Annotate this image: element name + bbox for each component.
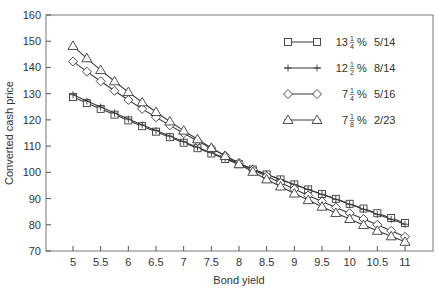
legend-fraction-denominator: 4 xyxy=(350,43,354,50)
x-axis: 55.566.577.588.599.51010.511 xyxy=(70,246,411,268)
x-tick-label: 11 xyxy=(399,256,410,268)
legend-fraction-numerator: 1 xyxy=(350,35,354,42)
legend-item: 714%5/16 xyxy=(284,87,396,102)
y-tick-label: 160 xyxy=(23,9,41,21)
y-tick-label: 70 xyxy=(29,245,41,257)
x-tick-label: 9.5 xyxy=(314,256,329,268)
legend-percent: % xyxy=(357,62,367,74)
x-tick-label: 9 xyxy=(291,256,297,268)
legend-fraction-denominator: 8 xyxy=(350,121,354,128)
legend-item: 718%2/23 xyxy=(283,113,395,128)
x-tick-label: 6.5 xyxy=(148,256,163,268)
y-tick-label: 100 xyxy=(23,166,41,178)
diamond-marker-icon xyxy=(96,77,105,86)
y-axis: 708090100110120130140150160 xyxy=(23,9,51,257)
triangle-marker-icon xyxy=(123,87,133,96)
triangle-marker-icon xyxy=(151,107,161,116)
x-tick-label: 5 xyxy=(70,256,76,268)
legend-percent: % xyxy=(357,114,367,126)
legend-percent: % xyxy=(357,88,367,100)
y-tick-label: 150 xyxy=(23,35,41,47)
triangle-marker-icon xyxy=(283,115,293,124)
triangle-marker-icon xyxy=(372,226,382,235)
diamond-marker-icon xyxy=(82,67,91,76)
x-axis-title: Bond yield xyxy=(213,274,264,286)
y-tick-label: 110 xyxy=(23,140,41,152)
legend-coupon: 12 xyxy=(336,62,348,74)
legend-fraction-numerator: 1 xyxy=(350,113,354,120)
triangle-marker-icon xyxy=(312,115,322,124)
triangle-marker-icon xyxy=(165,116,175,125)
triangle-marker-icon xyxy=(110,76,120,85)
diamond-marker-icon xyxy=(124,95,133,104)
x-tick-label: 6 xyxy=(125,256,131,268)
x-tick-label: 7.5 xyxy=(204,256,219,268)
legend-maturity: 8/14 xyxy=(374,62,395,74)
triangle-marker-icon xyxy=(179,126,189,135)
legend-coupon: 7 xyxy=(342,114,348,126)
diamond-marker-icon xyxy=(110,86,119,95)
y-tick-label: 140 xyxy=(23,61,41,73)
x-tick-label: 5.5 xyxy=(93,256,108,268)
diamond-marker-icon xyxy=(313,90,322,99)
plus-marker-icon xyxy=(285,65,292,72)
legend-coupon: 7 xyxy=(342,88,348,100)
triangle-marker-icon xyxy=(68,41,78,50)
triangle-marker-icon xyxy=(345,214,355,223)
bond-price-chart: 708090100110120130140150160 55.566.577.5… xyxy=(0,0,439,290)
legend-fraction-numerator: 1 xyxy=(350,87,354,94)
x-tick-label: 8 xyxy=(236,256,242,268)
y-axis-title: Converted cash price xyxy=(3,81,15,185)
y-tick-label: 130 xyxy=(23,88,41,100)
legend-fraction-denominator: 2 xyxy=(350,69,354,76)
plus-marker-icon xyxy=(314,65,321,72)
diamond-marker-icon xyxy=(69,57,78,66)
legend-fraction-denominator: 4 xyxy=(350,95,354,102)
y-tick-label: 120 xyxy=(23,114,41,126)
triangle-marker-icon xyxy=(137,97,147,106)
triangle-marker-icon xyxy=(359,220,369,229)
legend-item: 1314%5/14 xyxy=(284,35,395,50)
legend: 1314%5/141212%8/14714%5/16718%2/23 xyxy=(283,35,395,128)
x-tick-label: 8.5 xyxy=(259,256,274,268)
x-tick-label: 7 xyxy=(181,256,187,268)
y-tick-label: 80 xyxy=(29,219,41,231)
diamond-marker-icon xyxy=(284,90,293,99)
square-marker-icon xyxy=(285,39,292,46)
x-tick-label: 10 xyxy=(344,256,356,268)
legend-maturity: 5/16 xyxy=(374,88,395,100)
square-marker-icon xyxy=(314,39,321,46)
x-tick-label: 10.5 xyxy=(367,256,388,268)
legend-item: 1212%8/14 xyxy=(284,61,395,76)
triangle-marker-icon xyxy=(96,65,106,74)
legend-percent: % xyxy=(357,36,367,48)
legend-coupon: 13 xyxy=(336,36,348,48)
series-line xyxy=(73,46,405,242)
legend-maturity: 2/23 xyxy=(374,114,395,126)
legend-maturity: 5/14 xyxy=(374,36,395,48)
y-tick-label: 90 xyxy=(29,193,41,205)
legend-fraction-numerator: 1 xyxy=(350,61,354,68)
